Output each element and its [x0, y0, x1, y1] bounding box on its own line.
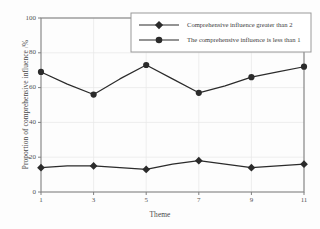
x-tick-label: 7: [188, 196, 210, 204]
x-tick-label: 5: [135, 196, 157, 204]
y-tick-label: 100: [14, 14, 36, 22]
x-tick-label: 9: [240, 196, 262, 204]
x-tick-label: 11: [293, 196, 315, 204]
chart-figure: Comprehensive influence greater than 2Th…: [0, 0, 320, 229]
y-tick-label: 0: [14, 188, 36, 196]
chart-legend[interactable]: Comprehensive influence greater than 2Th…: [131, 13, 311, 52]
legend-item-label: The comprehensive influence is less than…: [187, 36, 301, 43]
legend-item-label: Comprehensive influence greater than 2: [187, 21, 292, 28]
x-tick-label: 1: [30, 196, 52, 204]
x-tick-label: 3: [83, 196, 105, 204]
x-axis-title: Theme: [0, 210, 320, 219]
y-tick-label: 80: [14, 48, 36, 56]
y-tick-label: 20: [14, 153, 36, 161]
y-tick-label: 40: [14, 118, 36, 126]
y-tick-label: 60: [14, 83, 36, 91]
line-chart: Comprehensive influence greater than 2Th…: [0, 0, 320, 229]
series-lines: [37, 62, 308, 173]
